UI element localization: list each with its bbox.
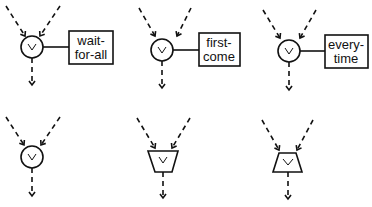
join-circle	[21, 36, 43, 58]
join-circle	[21, 146, 43, 168]
or-symbol-icon	[28, 44, 36, 50]
or-symbol-icon	[285, 48, 293, 54]
join-node-diagram: wait- for-all first- come every- time	[0, 0, 372, 207]
incoming-edge-right	[297, 120, 313, 150]
join-node-circle	[6, 117, 60, 196]
incoming-edge-right	[172, 118, 190, 148]
policy-label-line1: every-	[328, 37, 364, 52]
or-symbol-icon	[158, 47, 166, 53]
incoming-edge-left	[263, 10, 280, 38]
policy-label-line2: for-all	[75, 47, 108, 62]
incoming-edge-left	[137, 118, 155, 148]
policy-label-line2: come	[203, 49, 235, 64]
join-circle	[151, 39, 173, 61]
incoming-edge-left	[6, 117, 24, 145]
policy-label-line1: first-	[206, 35, 231, 50]
policy-label-line2: time	[334, 51, 359, 66]
join-trapezoid	[148, 151, 178, 172]
join-circle	[278, 40, 300, 62]
join-trapezoid	[273, 153, 302, 172]
or-symbol-icon	[283, 159, 293, 165]
join-node-trapezoid-up	[262, 120, 313, 199]
or-symbol-icon	[159, 157, 167, 163]
or-symbol-icon	[28, 154, 36, 160]
incoming-edge-left	[262, 120, 279, 150]
join-node-trapezoid-down	[137, 118, 190, 198]
incoming-edge-left	[139, 8, 155, 36]
incoming-edge-right	[40, 6, 60, 36]
incoming-edge-right	[300, 10, 316, 38]
incoming-edge-left	[6, 6, 25, 36]
incoming-edge-right	[177, 8, 191, 36]
incoming-edge-right	[41, 117, 60, 145]
policy-label-line1: wait-	[76, 33, 104, 48]
